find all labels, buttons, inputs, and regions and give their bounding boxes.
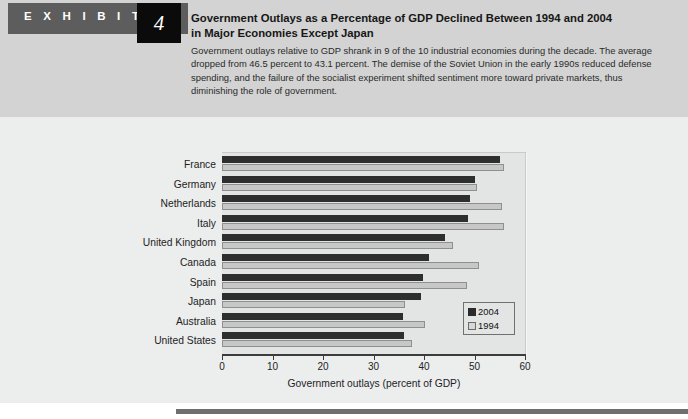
bar-2004	[222, 234, 445, 241]
x-axis-tick	[424, 354, 425, 360]
bar-1994	[222, 301, 405, 308]
exhibit-page: E X H I B I T 4 Government Outlays as a …	[0, 0, 688, 419]
category-label: Italy	[66, 218, 216, 229]
bar-1994	[222, 203, 502, 210]
bar-2004	[222, 313, 403, 320]
bar-1994	[222, 262, 479, 269]
header-band: E X H I B I T 4 Government Outlays as a …	[0, 0, 688, 117]
bar-2004	[222, 293, 421, 300]
exhibit-title-line-2: in Major Economies Except Japan	[191, 26, 661, 41]
x-axis-tick	[374, 354, 375, 360]
footer-rule	[176, 409, 688, 414]
bar-1994	[222, 282, 467, 289]
category-label: Germany	[66, 179, 216, 190]
bar-1994	[222, 242, 453, 249]
category-label: United States	[66, 335, 216, 346]
x-axis-tick	[475, 354, 476, 360]
chart-legend: 2004 1994	[463, 302, 515, 335]
category-label: Netherlands	[66, 198, 216, 209]
x-axis-tick-label: 50	[460, 361, 490, 372]
x-axis-tick-label: 40	[409, 361, 439, 372]
bar-2004	[222, 332, 404, 339]
exhibit-title-line-1: Government Outlays as a Percentage of GD…	[191, 11, 661, 26]
x-axis-tick	[273, 354, 274, 360]
bar-1994	[222, 184, 477, 191]
category-label: United Kingdom	[66, 237, 216, 248]
bar-2004	[222, 215, 468, 222]
legend-item-1994: 1994	[468, 319, 499, 332]
bar-1994	[222, 321, 425, 328]
legend-item-2004: 2004	[468, 305, 499, 318]
exhibit-number: 4	[137, 3, 181, 43]
category-label: Canada	[66, 257, 216, 268]
legend-label-2004: 2004	[478, 306, 499, 317]
bar-1994	[222, 340, 412, 347]
bar-2004	[222, 274, 423, 281]
bar-1994	[222, 223, 504, 230]
bar-2004	[222, 254, 429, 261]
x-axis-tick-label: 0	[207, 361, 237, 372]
x-axis-tick-label: 20	[308, 361, 338, 372]
legend-swatch-2004	[468, 308, 476, 316]
category-label: France	[66, 159, 216, 170]
chart-panel: 0102030405060 FranceGermanyNetherlandsIt…	[0, 117, 688, 403]
legend-swatch-1994	[468, 322, 476, 330]
x-axis-tick	[222, 354, 223, 360]
x-axis-tick	[525, 354, 526, 360]
exhibit-number-box: 4	[137, 3, 181, 43]
exhibit-description: Government outlays relative to GDP shran…	[191, 44, 659, 98]
x-axis-tick-label: 30	[359, 361, 389, 372]
bar-2004	[222, 195, 470, 202]
x-axis-tick-label: 60	[510, 361, 540, 372]
bar-2004	[222, 156, 500, 163]
x-axis-title: Government outlays (percent of GDP)	[222, 378, 526, 389]
bar-2004	[222, 176, 475, 183]
category-label: Australia	[66, 316, 216, 327]
category-label: Spain	[66, 277, 216, 288]
exhibit-label: E X H I B I T	[24, 9, 143, 23]
exhibit-title: Government Outlays as a Percentage of GD…	[191, 11, 661, 40]
x-axis-tick	[323, 354, 324, 360]
x-axis-tick-label: 10	[258, 361, 288, 372]
category-label: Japan	[66, 296, 216, 307]
legend-label-1994: 1994	[478, 320, 499, 331]
bar-1994	[222, 164, 504, 171]
